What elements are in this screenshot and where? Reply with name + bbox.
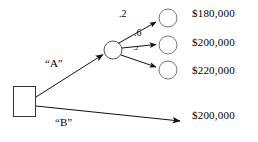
chance-branch-2-line	[122, 45, 156, 49]
payoff-label-2: $200,000	[192, 36, 235, 48]
probability-label-3: .2	[133, 44, 138, 52]
payoff-label-4: $200,000	[192, 109, 235, 121]
terminal-circle-1	[159, 9, 177, 27]
probability-label-2: .6	[134, 27, 142, 38]
probability-label-1: .2	[119, 8, 127, 19]
decision-tree-diagram: “A” “B” .2 .6 .2 $180,000 $200,000 $220,…	[0, 0, 258, 142]
payoff-label-1: $180,000	[192, 7, 235, 19]
terminal-circle-2	[159, 36, 177, 54]
terminal-circle-3	[159, 61, 177, 79]
branch-label-b: “B”	[55, 116, 72, 128]
chance-branch-3-line	[121, 55, 156, 67]
payoff-label-3: $220,000	[192, 64, 235, 76]
decision-square	[14, 87, 36, 117]
branch-label-a: “A”	[45, 57, 63, 69]
chance-circle	[104, 41, 122, 59]
